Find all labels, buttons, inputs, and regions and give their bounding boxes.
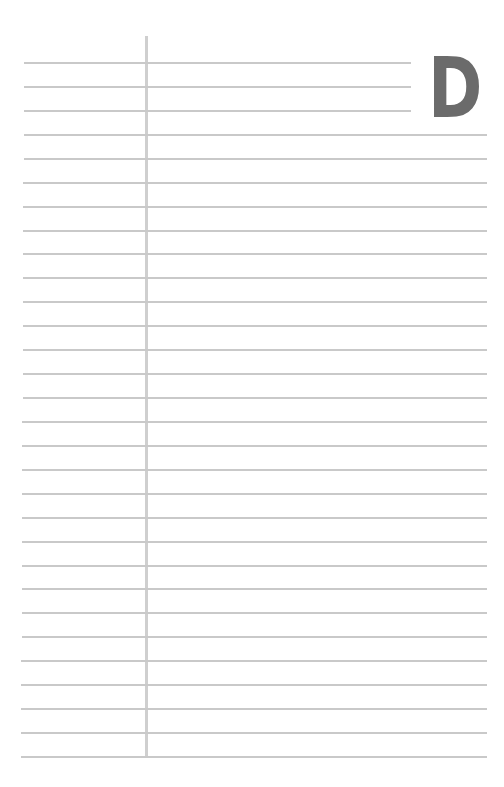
ruled-line (24, 62, 411, 64)
ruled-line (21, 708, 487, 710)
ruled-line (23, 373, 487, 375)
ruled-line (23, 230, 487, 232)
ruled-line (21, 756, 487, 758)
ruled-line (23, 206, 487, 208)
ruled-line (23, 301, 487, 303)
ruled-line (23, 253, 487, 255)
notebook-page: D (0, 0, 504, 787)
ruled-line (21, 732, 487, 734)
ruled-line (22, 445, 487, 447)
ruled-line (22, 636, 487, 638)
ruled-line (22, 565, 487, 567)
ruled-line (23, 325, 487, 327)
ruled-line (21, 684, 487, 686)
ruled-line (21, 660, 487, 662)
ruled-line (22, 612, 487, 614)
ruled-line (22, 493, 487, 495)
ruled-line (24, 110, 411, 112)
index-tab-letter: D (428, 46, 469, 130)
ruled-line (24, 134, 487, 136)
ruled-line (23, 349, 487, 351)
ruled-line (22, 541, 487, 543)
ruled-line (22, 588, 487, 590)
ruled-line (24, 158, 487, 160)
ruled-line (22, 517, 487, 519)
ruled-line (22, 469, 487, 471)
ruled-line (22, 421, 487, 423)
ruled-line (23, 397, 487, 399)
ruled-line (23, 182, 487, 184)
ruled-line (24, 86, 411, 88)
ruled-line (23, 277, 487, 279)
